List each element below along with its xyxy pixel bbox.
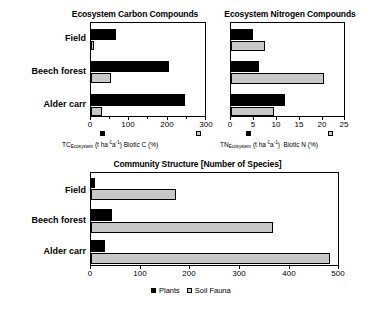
category-label-beech-forest-community: Beech forest xyxy=(4,215,86,225)
legend-swatch-soil-fauna-icon xyxy=(187,288,192,293)
key-swatch-plants-carbon xyxy=(100,131,105,136)
axis-caption-nitrogen-unit-exp1: -1 xyxy=(266,140,270,145)
axis-caption-nitrogen-unit-open: (t ha xyxy=(253,141,266,148)
plot-area-nitrogen xyxy=(230,22,345,117)
legend-label-plants: Plants xyxy=(159,286,180,295)
xtick-label-c-300: 300 xyxy=(229,269,249,278)
legend-entry-soil-fauna: Soil Fauna xyxy=(187,286,231,295)
bar-plants-field-nitrogen xyxy=(231,29,253,40)
category-label-beech-forest: Beech forest xyxy=(4,66,86,76)
category-label-field: Field xyxy=(10,33,86,43)
legend-entry-plants: Plants xyxy=(151,286,180,295)
bar-fauna-field xyxy=(91,41,94,50)
axis-caption-nitrogen: TNEcosystem (t ha-1a-1) Biotic N (%) xyxy=(220,141,318,150)
chart-title-carbon: Ecosystem Carbon Compounds xyxy=(60,9,210,19)
key-swatch-fauna-carbon xyxy=(196,131,201,136)
bar-plants-beech-forest-nitrogen xyxy=(231,61,259,72)
axis-caption-carbon-secondary: Biotic C (%) xyxy=(124,141,158,148)
axis-caption-carbon: TCEcosystem (t ha-1a-1) Biotic C (%) xyxy=(62,141,158,150)
bar-plants-alder-carr xyxy=(91,94,185,106)
scientific-figure: Ecosystem Carbon Compounds Field Beech f… xyxy=(0,0,370,310)
xtick-label-0: 0 xyxy=(80,120,100,129)
axis-caption-carbon-unit-exp2: -1 xyxy=(116,140,120,145)
xtick-label-c-200: 200 xyxy=(179,269,199,278)
axis-caption-nitrogen-subscript: Ecosystem xyxy=(229,144,251,149)
chart-panel-carbon: Ecosystem Carbon Compounds Field Beech f… xyxy=(0,0,212,155)
key-swatch-plants-nitrogen xyxy=(246,131,251,136)
chart-title-nitrogen: Ecosystem Nitrogen Compounds xyxy=(211,9,369,19)
xtick-minor-150 xyxy=(147,117,148,119)
bar-plants-alder-carr-community xyxy=(91,240,105,252)
xtick-label-c-400: 400 xyxy=(279,269,299,278)
chart-panel-community: Community Structure [Number of Species] … xyxy=(0,155,370,310)
bar-plants-beech-forest-community xyxy=(91,209,112,221)
bar-fauna-field-community xyxy=(91,189,176,200)
bar-fauna-beech-forest-nitrogen xyxy=(231,73,324,84)
bar-fauna-field-nitrogen xyxy=(231,41,265,51)
axis-caption-nitrogen-secondary: Biotic N (%) xyxy=(284,141,318,148)
figure-legend: Plants Soil Fauna xyxy=(151,286,231,295)
category-label-alder-carr-community: Alder carr xyxy=(10,246,86,256)
axis-caption-carbon-unit-open: (t ha xyxy=(95,141,108,148)
xtick-label-n-15: 15 xyxy=(289,120,309,129)
bar-plants-alder-carr-nitrogen xyxy=(231,94,285,106)
bar-fauna-alder-carr-nitrogen xyxy=(231,107,274,116)
axis-caption-nitrogen-unit-close: ) xyxy=(278,141,280,148)
plot-area-carbon xyxy=(90,22,206,117)
xtick-label-n-20: 20 xyxy=(312,120,332,129)
category-label-field-community: Field xyxy=(10,185,86,195)
xtick-label-c-500: 500 xyxy=(328,269,348,278)
chart-title-community: Community Structure [Number of Species] xyxy=(90,159,305,169)
bar-plants-field-community xyxy=(91,178,95,188)
bar-fauna-beech-forest xyxy=(91,73,111,83)
xtick-label-c-0: 0 xyxy=(80,269,100,278)
plot-area-community xyxy=(90,172,339,266)
key-swatch-fauna-nitrogen xyxy=(328,131,333,136)
category-label-alder-carr: Alder carr xyxy=(10,99,86,109)
xtick-minor-250 xyxy=(186,117,187,119)
bar-plants-beech-forest xyxy=(91,61,169,72)
bar-fauna-alder-carr-community xyxy=(91,253,330,264)
xtick-label-n-5: 5 xyxy=(243,120,263,129)
bar-fauna-alder-carr xyxy=(91,107,102,116)
axis-caption-carbon-primary: TC xyxy=(62,141,71,148)
xtick-label-n-25: 25 xyxy=(334,120,354,129)
xtick-label-n-0: 0 xyxy=(220,120,240,129)
xtick-label-100: 100 xyxy=(118,120,138,129)
bar-plants-field xyxy=(91,29,116,40)
axis-caption-carbon-unit-close: ) xyxy=(120,141,122,148)
xtick-minor-50 xyxy=(109,117,110,119)
bar-fauna-beech-forest-community xyxy=(91,222,273,233)
axis-caption-nitrogen-primary: TN xyxy=(220,141,229,148)
xtick-label-200: 200 xyxy=(157,120,177,129)
axis-caption-carbon-unit-exp1: -1 xyxy=(108,140,112,145)
legend-label-soil-fauna: Soil Fauna xyxy=(195,286,231,295)
chart-panel-nitrogen: Ecosystem Nitrogen Compounds 0 5 10 15 2… xyxy=(212,0,370,155)
xtick-label-n-10: 10 xyxy=(266,120,286,129)
xtick-label-c-100: 100 xyxy=(130,269,150,278)
legend-swatch-plants-icon xyxy=(151,288,156,293)
axis-caption-carbon-subscript: Ecosystem xyxy=(71,144,93,149)
axis-caption-nitrogen-unit-exp2: -1 xyxy=(274,140,278,145)
